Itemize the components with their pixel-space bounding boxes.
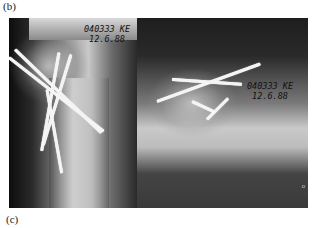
panel-label-b: (b)	[3, 0, 16, 12]
film-marker: o	[302, 183, 305, 189]
k-wire	[191, 100, 215, 113]
film-stamp: 040333 KE 12.6.88	[247, 81, 293, 101]
xray-image-left: 040333 KE 12.6.88	[9, 18, 137, 208]
panel-label-c: (c)	[6, 213, 18, 225]
xray-image-right: 040333 KE 12.6.88 o	[137, 18, 308, 208]
film-stamp: 040333 KE 12.6.88	[84, 24, 130, 44]
